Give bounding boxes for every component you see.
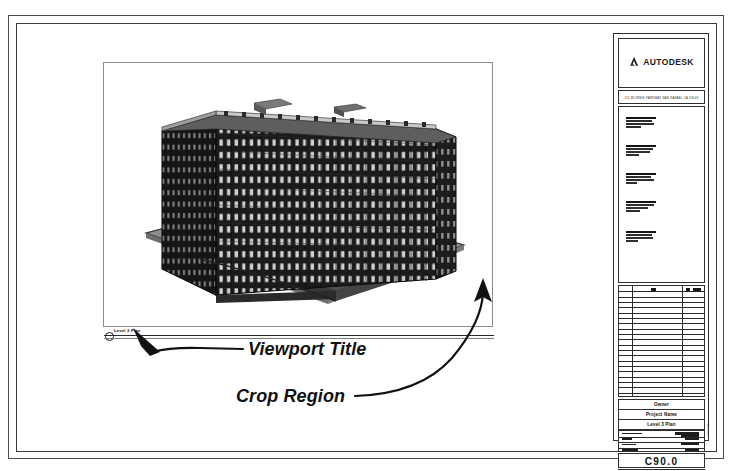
revision-schedule bbox=[618, 285, 705, 397]
viewport-number-bubble bbox=[105, 332, 114, 341]
sheet-number-text: C90.0 bbox=[619, 456, 704, 467]
sheet-number-field[interactable]: C90.0 bbox=[618, 453, 705, 468]
note-group bbox=[626, 117, 656, 129]
viewport-title-text: Level 3 Plan bbox=[114, 327, 141, 334]
annotation-label-viewport-title: Viewport Title bbox=[248, 339, 366, 360]
meta-label-mark bbox=[622, 449, 638, 451]
meta-value-mark bbox=[681, 443, 699, 445]
revision-header-mark bbox=[686, 288, 690, 291]
owner-text: Owner bbox=[619, 402, 704, 407]
side-strip-glyph: 1 bbox=[706, 434, 710, 437]
meta-label-mark bbox=[622, 444, 636, 446]
viewport-title-rule bbox=[104, 335, 494, 336]
note-group bbox=[626, 145, 656, 157]
meta-value-mark bbox=[685, 438, 699, 440]
address-text: 111 MCINNIS PARKWAY SAN RAFAEL CA 94903 bbox=[619, 94, 704, 100]
meta-label-mark bbox=[622, 438, 632, 440]
annotation-label-crop-region: Crop Region bbox=[236, 386, 345, 407]
logo-wordmark: AUTODESK bbox=[643, 57, 694, 67]
title-block-footer-rule bbox=[618, 469, 705, 470]
sheet-name-field[interactable]: Level 3 Plan bbox=[618, 419, 705, 430]
autodesk-triangle-icon bbox=[629, 56, 640, 67]
building-model-graphic bbox=[104, 63, 492, 326]
note-group bbox=[626, 201, 656, 213]
note-group bbox=[626, 173, 656, 185]
meta-value-mark bbox=[681, 435, 699, 437]
title-block-side-strip: A 1 0 1 bbox=[706, 424, 710, 438]
revision-column-divider bbox=[632, 286, 633, 396]
autodesk-logo: AUTODESK bbox=[619, 56, 704, 67]
project-name-text: Project Name bbox=[619, 412, 704, 417]
revision-column-divider bbox=[682, 286, 683, 396]
revision-header-mark bbox=[693, 288, 701, 291]
revision-header-mark bbox=[651, 288, 656, 291]
logo-panel: AUTODESK bbox=[618, 38, 705, 88]
title-block: AUTODESK 111 MCINNIS PARKWAY SAN RAFAEL … bbox=[613, 33, 709, 441]
sheet-name-text: Level 3 Plan bbox=[619, 422, 704, 427]
note-group bbox=[626, 231, 656, 243]
address-panel: 111 MCINNIS PARKWAY SAN RAFAEL CA 94903 bbox=[618, 90, 705, 104]
meta-label-mark bbox=[622, 433, 642, 435]
viewport-crop-region[interactable]: Level 3 Plan bbox=[103, 62, 493, 327]
meta-value-mark bbox=[685, 449, 699, 451]
general-notes-panel bbox=[618, 106, 705, 283]
viewport-canvas[interactable] bbox=[104, 63, 492, 326]
project-meta-panel bbox=[618, 430, 705, 452]
